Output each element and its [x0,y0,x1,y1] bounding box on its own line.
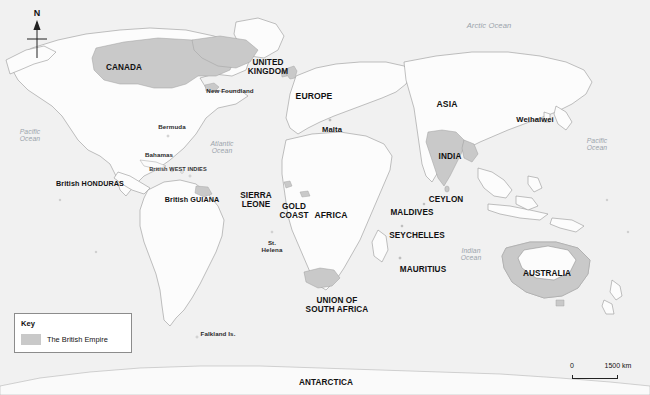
legend-swatch-british-empire [21,334,41,345]
empire-region-seychelles [401,225,403,227]
map-legend: Key The British Empire [14,313,132,353]
empire-region-malta [329,119,331,121]
empire-region-gold-coast [300,191,310,197]
landmass-korea [544,112,550,122]
map-scalebar: 0 1500 km [572,362,638,386]
compass-rose: N [20,8,54,60]
island-pacific-a [606,199,608,201]
empire-region-ceylon [445,186,449,192]
island-hispaniola [170,168,174,172]
empire-region-maldives [423,203,425,205]
legend-entry-british-empire: The British Empire [21,334,125,345]
scalebar-min-label: 0 [570,362,574,369]
island-lesser-antilles [189,175,191,177]
legend-title: Key [21,319,125,328]
scalebar-labels: 0 1500 km [572,362,638,372]
island-falkland [196,336,198,338]
island-pacific-d [95,251,97,253]
map-container: .land { fill:#fcfcfc; stroke:#8d8d8d; st… [0,0,650,395]
island-st-helena [271,231,273,233]
compass-north-label: N [34,8,41,18]
scalebar-bar [572,375,618,379]
island-puerto-rico [181,171,184,174]
island-bermuda [167,135,169,137]
legend-label-british-empire: The British Empire [47,335,108,344]
empire-region-mauritius [399,257,401,259]
island-pacific-b [627,231,629,233]
empire-region-tasmania [556,300,564,306]
scalebar-max-label: 1500 km [605,362,632,369]
empire-region-ireland [281,70,287,77]
island-pacific-c [59,199,61,201]
